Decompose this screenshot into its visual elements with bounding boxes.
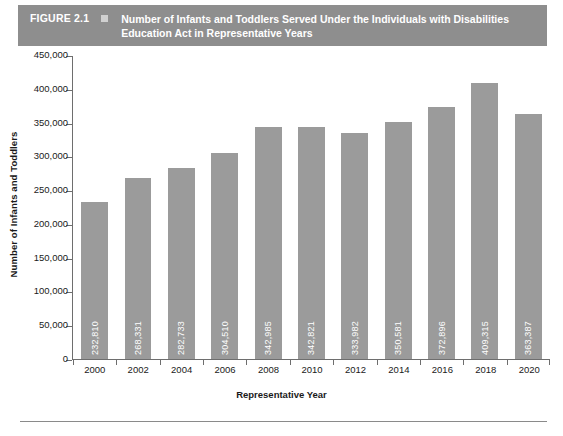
- bar-slot: 268,331: [116, 56, 159, 359]
- x-axis-title: Representative Year: [0, 389, 563, 400]
- bar-value-label: 268,331: [133, 321, 143, 355]
- bar[interactable]: 333,982: [341, 133, 368, 359]
- x-axis-tick-label: 2006: [203, 364, 246, 375]
- bar-value-label: 409,315: [480, 321, 490, 355]
- bar[interactable]: 268,331: [125, 178, 152, 359]
- x-axis-tick-label: 2014: [377, 364, 420, 375]
- bar-value-label: 350,581: [393, 321, 403, 355]
- bar-value-label: 363,387: [523, 321, 533, 355]
- bar-slot: 342,985: [246, 56, 289, 359]
- figure-number: FIGURE 2.1: [18, 12, 89, 25]
- bar-value-label: 342,985: [263, 321, 273, 355]
- x-axis-tick-label: 2012: [334, 364, 377, 375]
- y-axis-title: Number of Infants and Toddlers: [3, 48, 25, 360]
- bar-slot: 333,982: [333, 56, 376, 359]
- x-axis-tick-label: 2018: [464, 364, 507, 375]
- bar[interactable]: 350,581: [385, 122, 412, 359]
- plot-area: 050,000100,000150,000200,000250,000300,0…: [72, 56, 550, 360]
- y-axis-tick-label: 50,000: [39, 319, 68, 330]
- y-axis-tick-label: 450,000: [34, 49, 68, 60]
- bar-value-label: 342,821: [306, 321, 316, 355]
- y-axis-tick-label: 400,000: [34, 83, 68, 94]
- x-axis-labels: 2000200220042006200820102012201420162018…: [73, 364, 551, 375]
- x-axis-tick-label: 2002: [116, 364, 159, 375]
- y-axis-tick-label: 200,000: [34, 218, 68, 229]
- bar-value-label: 372,896: [437, 321, 447, 355]
- bar-slot: 350,581: [377, 56, 420, 359]
- bar-slot: 304,510: [203, 56, 246, 359]
- x-axis-tick-label: 2016: [421, 364, 464, 375]
- y-axis-tick-label: 0: [63, 353, 68, 364]
- y-axis-tick-label: 350,000: [34, 117, 68, 128]
- bar-value-label: 282,733: [176, 321, 186, 355]
- y-axis-title-label: Number of Infants and Toddlers: [9, 131, 20, 277]
- y-axis-tick-label: 250,000: [34, 184, 68, 195]
- bar-value-label: 304,510: [220, 321, 230, 355]
- x-axis-tick-label: 2004: [160, 364, 203, 375]
- footer-divider: [20, 421, 547, 422]
- bar[interactable]: 409,315: [471, 83, 498, 360]
- bar-slot: 363,387: [507, 56, 550, 359]
- bar[interactable]: 342,821: [298, 127, 325, 359]
- x-axis-tick-label: 2020: [508, 364, 551, 375]
- y-axis-tick-label: 300,000: [34, 150, 68, 161]
- bar-slot: 372,896: [420, 56, 463, 359]
- x-axis-tick-label: 2010: [290, 364, 333, 375]
- bar[interactable]: 342,985: [255, 127, 282, 359]
- bar[interactable]: 372,896: [428, 107, 455, 359]
- bar-slot: 282,733: [160, 56, 203, 359]
- bar-value-label: 333,982: [350, 321, 360, 355]
- y-axis-tick-label: 100,000: [34, 285, 68, 296]
- bar-slot: 342,821: [290, 56, 333, 359]
- bar[interactable]: 363,387: [515, 114, 542, 359]
- figure-title: Number of Infants and Toddlers Served Un…: [121, 12, 521, 40]
- y-axis-tick-label: 150,000: [34, 252, 68, 263]
- bar[interactable]: 232,810: [81, 202, 108, 359]
- x-axis-tick-label: 2008: [247, 364, 290, 375]
- figure-header: FIGURE 2.1 Number of Infants and Toddler…: [18, 5, 547, 46]
- bar[interactable]: 304,510: [211, 153, 238, 359]
- bar-chart: Number of Infants and Toddlers 050,00010…: [0, 48, 563, 398]
- bar[interactable]: 282,733: [168, 168, 195, 359]
- square-marker-icon: [101, 15, 108, 22]
- bar-value-label: 232,810: [90, 321, 100, 355]
- bar-slot: 232,810: [73, 56, 116, 359]
- bar-slot: 409,315: [463, 56, 506, 359]
- x-axis-tick-label: 2000: [73, 364, 116, 375]
- bar-series: 232,810268,331282,733304,510342,985342,8…: [73, 56, 550, 359]
